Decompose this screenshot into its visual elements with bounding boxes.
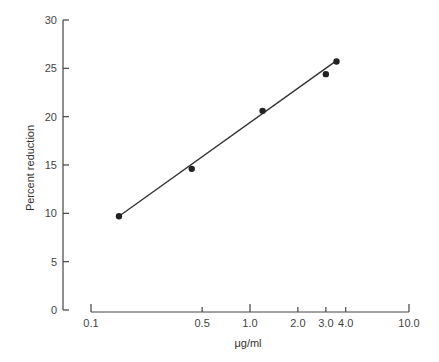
x-tick-label: 1.0 xyxy=(242,317,257,329)
x-tick-label: 4.0 xyxy=(338,317,353,329)
y-tick-label: 10 xyxy=(45,207,57,219)
y-axis: 051015202530 xyxy=(45,14,69,316)
y-tick-label: 15 xyxy=(45,159,57,171)
y-tick-label: 20 xyxy=(45,111,57,123)
x-axis-label: μg/ml xyxy=(234,337,261,349)
x-axis: 0.10.51.02.03.04.010.0 xyxy=(83,304,419,329)
x-tick-label: 10.0 xyxy=(398,317,419,329)
data-point xyxy=(189,166,195,172)
x-tick-label: 0.1 xyxy=(83,317,98,329)
y-axis-label: Percent reduction xyxy=(24,125,36,211)
data-point xyxy=(323,71,329,77)
regression-line xyxy=(119,61,337,217)
chart-canvas: 051015202530 0.10.51.02.03.04.010.0 Perc… xyxy=(0,0,439,362)
data-point xyxy=(116,213,122,219)
data-point xyxy=(259,108,265,114)
x-tick-label: 2.0 xyxy=(290,317,305,329)
data-point xyxy=(333,58,339,64)
y-tick-label: 5 xyxy=(51,256,57,268)
x-tick-label: 0.5 xyxy=(194,317,209,329)
y-tick-label: 30 xyxy=(45,14,57,26)
y-tick-label: 25 xyxy=(45,62,57,74)
x-tick-label: 3.0 xyxy=(318,317,333,329)
y-tick-label: 0 xyxy=(51,304,57,316)
plot-area xyxy=(116,58,340,219)
